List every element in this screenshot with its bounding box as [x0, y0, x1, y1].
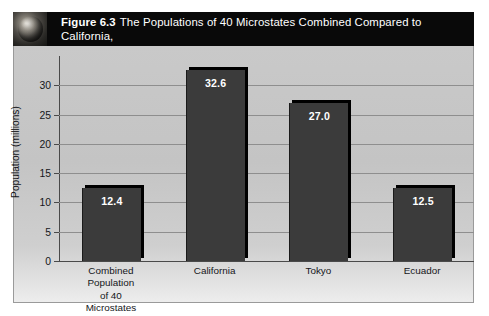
y-tick-label: 30 [39, 80, 51, 91]
figure-number: Figure 6.3 [61, 16, 116, 28]
bar: 12.5 [393, 188, 452, 261]
chart-plot-panel: Population (millions) 051015202530 12.43… [13, 46, 474, 303]
x-category-label-line: Tokyo [267, 265, 371, 277]
bar: 27.0 [289, 103, 348, 261]
x-category-label: CombinedPopulationof 40Microstates [59, 265, 163, 315]
plot-area: 051015202530 12.432.627.012.5 [59, 56, 474, 262]
gridline [59, 85, 474, 86]
x-category-label-line: Ecuador [370, 265, 474, 277]
x-category-label: Ecuador [370, 265, 474, 277]
y-tick-mark [54, 261, 59, 262]
y-tick-label: 15 [39, 168, 51, 179]
x-category-label: Tokyo [267, 265, 371, 277]
y-tick-mark [54, 232, 59, 233]
y-tick-label: 10 [39, 197, 51, 208]
y-tick-label: 25 [39, 109, 51, 120]
gridline [59, 173, 474, 174]
gridline [59, 115, 474, 116]
gridline [59, 144, 474, 145]
x-axis-category-labels: CombinedPopulationof 40MicrostatesCalifo… [59, 265, 474, 316]
y-axis-title: Population (millions) [10, 92, 24, 212]
y-tick-mark [54, 173, 59, 174]
figure-title: Figure 6.3The Populations of 40 Microsta… [47, 12, 474, 46]
bar: 12.4 [82, 188, 141, 261]
bar-value-label: 32.6 [187, 77, 245, 89]
y-tick-mark [54, 144, 59, 145]
figure-header: Figure 6.3The Populations of 40 Microsta… [13, 12, 474, 46]
y-tick-mark [54, 115, 59, 116]
bar-value-label: 12.5 [394, 195, 452, 207]
x-axis-line [59, 261, 474, 262]
x-category-label-line: Microstates [59, 302, 163, 314]
y-tick-label: 0 [45, 256, 51, 267]
x-category-label-line: Population [59, 277, 163, 289]
bar-value-label: 12.4 [83, 195, 141, 207]
globe-icon [13, 12, 47, 46]
y-tick-mark [54, 202, 59, 203]
y-tick-label: 20 [39, 138, 51, 149]
x-category-label-line: California [163, 265, 267, 277]
x-category-label: California [163, 265, 267, 277]
y-tick-label: 5 [45, 226, 51, 237]
y-tick-mark [54, 85, 59, 86]
bar: 32.6 [186, 70, 245, 261]
bar-value-label: 27.0 [290, 110, 348, 122]
x-category-label-line: Combined [59, 265, 163, 277]
figure-panel: Figure 6.3The Populations of 40 Microsta… [13, 12, 474, 303]
x-category-label-line: of 40 [59, 290, 163, 302]
